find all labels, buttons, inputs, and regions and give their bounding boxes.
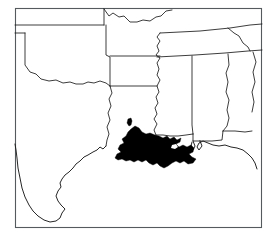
state-border-georgia-florida (223, 131, 252, 132)
range-polygon-main (115, 126, 196, 168)
state-border-mississippi-river (154, 33, 160, 135)
state-border-oklahoma-arkansas (106, 25, 110, 86)
range-polygon-isolated-patch (127, 118, 132, 126)
state-border-missouri-north (104, 9, 172, 22)
state-border-louisiana-texas (106, 86, 112, 146)
state-border-alabama-georgia (223, 54, 229, 131)
state-border-mississippi-alabama-coast (193, 134, 200, 141)
state-border-tennessee-east (228, 28, 250, 51)
state-border-alabama-florida (200, 131, 223, 141)
map-canvas (0, 0, 270, 235)
state-border-kentucky-tennessee (160, 24, 262, 33)
map-frame-border (16, 9, 262, 228)
state-border-georgia-east (252, 52, 256, 112)
coastline-florida-panhandle (197, 141, 257, 169)
state-border-tennessee-south (157, 50, 262, 57)
distribution-map-figure (0, 0, 270, 235)
species-range-layer (115, 118, 196, 168)
state-border-texas-oklahoma-red-river (25, 33, 110, 86)
state-border-mississippi-alabama (192, 56, 193, 134)
state-boundary-layer (15, 9, 262, 146)
coastline-texas-gulf (15, 144, 106, 222)
state-border-louisiana-mississippi-south (156, 134, 193, 136)
